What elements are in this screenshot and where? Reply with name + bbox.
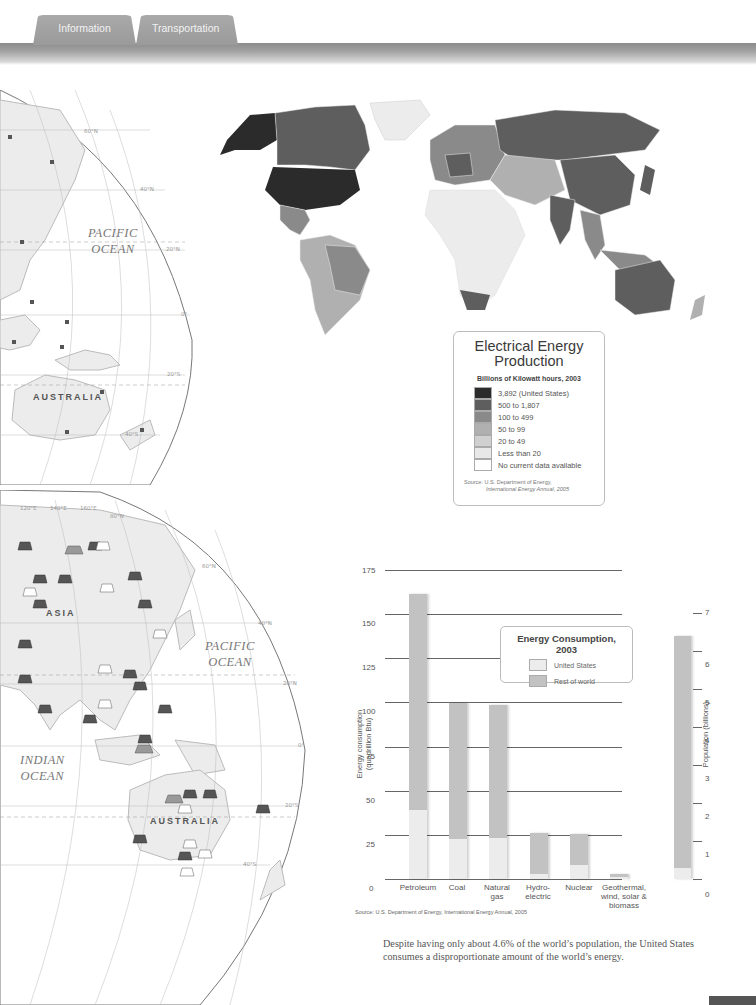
pop-tick-label: 1 [705, 850, 709, 859]
bar-coal [449, 703, 467, 879]
lat-label: 60°N [202, 563, 216, 569]
swatch [474, 459, 492, 471]
swatch [529, 659, 547, 671]
pop-tick-label: 0 [705, 890, 709, 899]
header-tabbar: Information Transportation [0, 0, 756, 65]
pop-tick [693, 803, 702, 804]
map-legend-source: Source: U.S. Department of Energy, Inter… [464, 479, 596, 493]
chart-source: Source: U.S. Department of Energy, Inter… [355, 909, 527, 915]
chart-legend: Energy Consumption, 2003 United States R… [500, 626, 633, 683]
lat-label: 20°N [283, 680, 297, 686]
legend-item: Less than 20 [474, 447, 596, 459]
lat-label: 40°N [258, 620, 272, 626]
swatch [529, 675, 547, 687]
tab-transportation[interactable]: Transportation [136, 15, 238, 45]
pop-tick-label: 6 [705, 660, 709, 669]
swatch [474, 399, 492, 411]
map-legend: Electrical Energy Production Billions of… [453, 331, 605, 506]
y-tick: 75 [366, 752, 375, 761]
pacific-ocean-label-bottom: PACIFIC OCEAN [205, 638, 255, 670]
lat-label: 40°S [243, 861, 256, 867]
x-label-geothermal: Geothermal,wind, solar &biomass [593, 883, 655, 910]
lon-label: 120°E [20, 505, 37, 511]
legend-item-us: United States [529, 659, 626, 671]
bar-hydroelectric [530, 833, 548, 879]
lat-label: 0° [298, 742, 304, 748]
y-tick: 150 [362, 619, 375, 628]
lat-label: 0° [181, 311, 187, 317]
y-tick: 0 [369, 884, 373, 893]
indian-ocean-label: INDIAN OCEAN [20, 752, 65, 784]
bar-population [674, 636, 691, 879]
y-tick: 125 [362, 663, 375, 672]
x-label-natural-gas: Naturalgas [477, 883, 517, 901]
pacific-ocean-label-top: PACIFIC OCEAN [88, 225, 138, 257]
swatch [474, 423, 492, 435]
lat-label: 20°N [166, 246, 180, 252]
bar-natural-gas [489, 705, 507, 879]
baseline [385, 879, 622, 880]
y-tick: 25 [366, 840, 375, 849]
lat-label: 80°N [110, 513, 124, 519]
map-legend-title: Electrical Energy Production [462, 339, 596, 369]
pacific-globe-map-top: PACIFIC OCEAN AUSTRALIA 60°N 40°N 20°N 0… [0, 90, 200, 485]
world-electricity-map [205, 95, 756, 335]
energy-consumption-chart: Energy consumption (quadrillion Btu) 0 2… [355, 555, 756, 925]
australia-label-top: AUSTRALIA [33, 392, 103, 402]
australia-label-bottom: AUSTRALIA [150, 816, 220, 826]
lat-label: 40°S [125, 431, 138, 437]
legend-item: 20 to 49 [474, 435, 596, 447]
header-strip [0, 43, 756, 65]
pop-tick-label: 2 [705, 812, 709, 821]
swatch [474, 387, 492, 399]
chart-legend-title: Energy Consumption, 2003 [507, 633, 626, 655]
bar-nuclear [570, 834, 588, 879]
map-legend-subtitle: Billions of Kilowatt hours, 2003 [462, 375, 596, 382]
tab-information[interactable]: Information [33, 15, 136, 45]
lat-label: 60°N [84, 128, 98, 134]
page-corner-tab [709, 996, 756, 1005]
legend-item: 100 to 499 [474, 411, 596, 423]
asia-pacific-minerals-map: 120°E 140°E 160°E 80°N 60°N 40°N 20°N 0°… [0, 490, 330, 1005]
pop-tick [693, 841, 702, 842]
legend-item-world: Rest of world [529, 675, 626, 687]
pop-tick [693, 613, 702, 614]
x-label-hydroelectric: Hydro-electric [517, 883, 559, 901]
x-label-coal: Coal [437, 883, 477, 892]
pop-tick [693, 879, 702, 880]
y-tick: 100 [362, 707, 375, 716]
swatch [474, 435, 492, 447]
swatch [474, 411, 492, 423]
lon-label: 160°E [80, 505, 97, 511]
legend-item: 50 to 99 [474, 423, 596, 435]
lat-label: 20°S [285, 802, 298, 808]
asia-label: ASIA [46, 608, 76, 618]
gridline [385, 570, 622, 571]
bar-geothermal [610, 874, 628, 879]
legend-item: 3,892 (United States) [474, 387, 596, 399]
pop-tick [693, 651, 702, 652]
legend-item: 500 to 1,807 [474, 399, 596, 411]
bar-petroleum [409, 594, 427, 879]
lat-label: 20°S [167, 371, 180, 377]
y-tick: 175 [362, 566, 375, 575]
y-tick: 50 [366, 796, 375, 805]
pop-tick-label: 7 [705, 608, 709, 617]
lat-label: 40°N [140, 186, 154, 192]
population-axis-title: Population (billions) [701, 685, 710, 785]
swatch [474, 447, 492, 459]
x-label-petroleum: Petroleum [393, 883, 443, 892]
y-axis-title: Energy consumption (quadrillion Btu) [355, 679, 373, 809]
lon-label: 140°E [50, 505, 67, 511]
caption: Despite having only about 4.6% of the wo… [383, 938, 703, 963]
legend-item: No current data available [474, 459, 596, 471]
